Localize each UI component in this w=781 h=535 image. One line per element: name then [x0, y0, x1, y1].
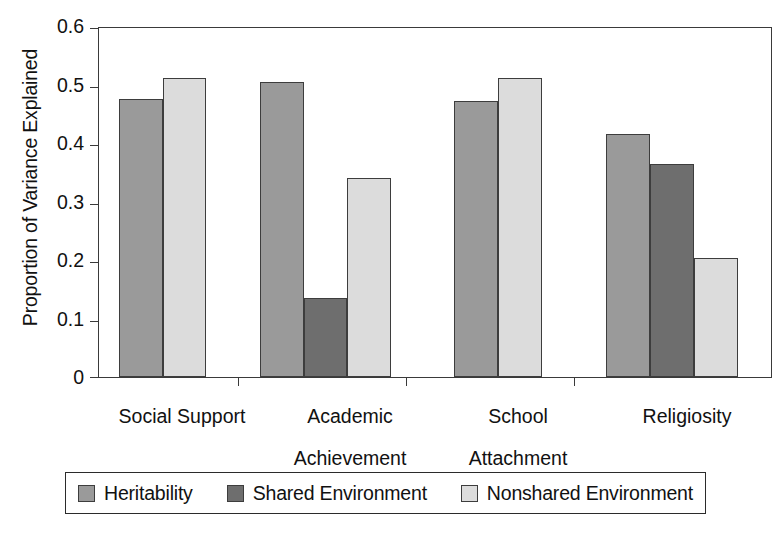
y-axis-tick-0.4 [90, 145, 99, 146]
legend-swatch-shared-environment-icon [227, 485, 244, 502]
y-tick-label-0.3: 0.3 [0, 193, 84, 213]
bar-school-attachment-nonshared-environment [498, 78, 542, 377]
bar-chart-figure: Proportion of Variance Explained 0.6 0.5… [0, 0, 781, 535]
x-axis-label-academic-achievement-line2: Achievement [294, 447, 407, 469]
bar-religiosity-nonshared-environment [694, 258, 738, 377]
y-tick-label-0.1: 0.1 [0, 310, 84, 330]
legend: Heritability Shared Environment Nonshare… [65, 472, 706, 514]
x-axis-label-social-support-text: Social Support [119, 405, 246, 427]
legend-item-shared-environment: Shared Environment [227, 482, 427, 505]
y-axis-tick-0.5 [90, 87, 99, 88]
legend-swatch-nonshared-environment-icon [461, 485, 478, 502]
x-axis-label-religiosity-text: Religiosity [643, 405, 732, 427]
y-tick-label-0.2: 0.2 [0, 251, 84, 271]
bar-academic-achievement-nonshared-environment [347, 178, 391, 378]
bar-social-support-nonshared-environment [163, 78, 206, 377]
bar-religiosity-shared-environment [650, 164, 694, 377]
x-axis-label-academic-achievement: Academic Achievement [266, 385, 434, 469]
legend-label-heritability: Heritability [104, 482, 193, 505]
bar-academic-achievement-shared-environment [304, 298, 347, 377]
bar-social-support-heritability [119, 99, 163, 377]
x-axis-label-school-attachment: School Attachment [434, 385, 602, 469]
y-axis-tick-0.2 [90, 262, 99, 263]
x-axis-label-school-attachment-line2: Attachment [469, 447, 568, 469]
bar-religiosity-heritability [606, 134, 650, 377]
y-axis-tick-0.6 [90, 28, 99, 29]
legend-label-shared-environment: Shared Environment [253, 482, 427, 505]
x-axis-label-school-attachment-line1: School [488, 405, 548, 427]
bar-school-attachment-heritability [454, 101, 498, 377]
bar-academic-achievement-heritability [260, 82, 304, 377]
x-axis-label-religiosity: Religiosity [602, 385, 772, 427]
y-axis-tick-0.1 [90, 321, 99, 322]
legend-swatch-heritability-icon [78, 485, 95, 502]
x-axis-label-social-support: Social Support [98, 385, 266, 427]
y-tick-label-0.6: 0.6 [0, 17, 84, 37]
legend-label-nonshared-environment: Nonshared Environment [487, 482, 693, 505]
legend-item-heritability: Heritability [78, 482, 193, 505]
plot-area [98, 27, 772, 378]
y-axis-tick-0 [90, 377, 99, 378]
y-tick-label-0.4: 0.4 [0, 134, 84, 154]
y-tick-label-0.5: 0.5 [0, 76, 84, 96]
y-axis-tick-0.3 [90, 204, 99, 205]
y-tick-label-0: 0 [0, 368, 84, 388]
legend-item-nonshared-environment: Nonshared Environment [461, 482, 693, 505]
x-axis-label-academic-achievement-line1: Academic [307, 405, 393, 427]
